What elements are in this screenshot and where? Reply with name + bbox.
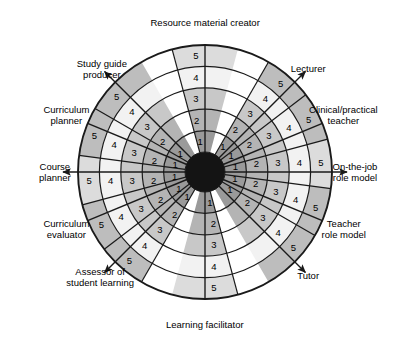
axis-label-course-planner: Course planner xyxy=(39,161,71,183)
scale-number: 3 xyxy=(132,147,137,158)
axis-label-tutor: Tutor xyxy=(297,270,319,281)
scale-number: 5 xyxy=(291,242,296,253)
scale-number: 1 xyxy=(232,173,237,184)
scale-number: 4 xyxy=(119,211,124,222)
scale-number: 5 xyxy=(86,175,91,186)
scale-number: 5 xyxy=(211,282,216,293)
scale-number: 2 xyxy=(254,158,259,169)
scale-number: 2 xyxy=(151,175,156,186)
scale-number: 1 xyxy=(220,141,225,152)
scale-number: 1 xyxy=(177,148,182,159)
scale-number: 5 xyxy=(92,130,97,141)
scale-number: 3 xyxy=(273,186,278,197)
figure-canvas: 1234512345123451234512345123451234512345… xyxy=(0,0,417,352)
scale-number: 1 xyxy=(233,161,238,172)
scale-number: 2 xyxy=(211,218,216,229)
axis-label-study-guide-producer: Study guide producer xyxy=(77,58,127,80)
scale-number: 1 xyxy=(228,150,233,161)
scale-number: 4 xyxy=(297,157,302,168)
scale-number: 2 xyxy=(247,139,252,150)
scale-number: 4 xyxy=(129,106,134,117)
scale-number: 4 xyxy=(293,194,298,205)
scale-number: 5 xyxy=(313,202,318,213)
scale-number: 1 xyxy=(172,171,177,182)
axis-label-resource-material-creator: Resource material creator xyxy=(151,17,260,28)
scale-number: 5 xyxy=(278,78,283,89)
scale-number: 1 xyxy=(207,197,212,208)
scale-number: 3 xyxy=(211,239,216,250)
axis-label-curriculum-evaluator: Curriculum evaluator xyxy=(43,218,89,240)
scale-number: 4 xyxy=(108,175,113,186)
scale-number: 5 xyxy=(127,255,132,266)
axis-label-assessor-of-student-learning: Assessor of student learning xyxy=(66,266,134,288)
scale-number: 3 xyxy=(248,108,253,119)
scale-number: 1 xyxy=(172,159,177,170)
axis-label-teacher-role-model: Teacher role model xyxy=(322,218,366,240)
scale-number: 5 xyxy=(114,91,119,102)
scale-number: 2 xyxy=(253,178,258,189)
axis-label-learning-facilitator: Learning facilitator xyxy=(166,319,244,330)
scale-number: 5 xyxy=(99,219,104,230)
scale-number: 4 xyxy=(276,227,281,238)
scale-number: 3 xyxy=(144,121,149,132)
scale-number: 4 xyxy=(142,240,147,251)
scale-number: 3 xyxy=(138,203,143,214)
scale-number: 4 xyxy=(112,139,117,150)
axis-label-clinical-practical-teacher: Clinical/practical teacher xyxy=(309,104,378,126)
scale-number: 4 xyxy=(193,72,198,83)
scale-number: 4 xyxy=(211,261,216,272)
scale-number: 3 xyxy=(129,175,134,186)
axis-label-curriculum-planner: Curriculum planner xyxy=(43,104,89,126)
scale-number: 3 xyxy=(193,93,198,104)
scale-number: 1 xyxy=(197,136,202,147)
scale-number: 5 xyxy=(318,157,323,168)
scale-number: 3 xyxy=(157,224,162,235)
scale-number: 1 xyxy=(227,184,232,195)
scale-number: 2 xyxy=(233,124,238,135)
core-circle xyxy=(185,152,225,192)
scale-number: 4 xyxy=(263,93,268,104)
scale-number: 3 xyxy=(275,157,280,168)
scale-number: 2 xyxy=(158,194,163,205)
scale-number: 1 xyxy=(176,183,181,194)
scale-number: 2 xyxy=(160,136,165,147)
scale-number: 3 xyxy=(260,212,265,223)
scale-number: 4 xyxy=(286,122,291,133)
axis-label-lecturer: Lecturer xyxy=(291,63,326,74)
axis-label-on-the-job-role-model: On-the-job role model xyxy=(333,161,378,183)
scale-number: 5 xyxy=(193,50,198,61)
scale-number: 3 xyxy=(266,130,271,141)
scale-number: 2 xyxy=(152,155,157,166)
scale-number: 2 xyxy=(245,197,250,208)
scale-number: 1 xyxy=(184,191,189,202)
scale-number: 2 xyxy=(172,209,177,220)
scale-number: 2 xyxy=(194,115,199,126)
